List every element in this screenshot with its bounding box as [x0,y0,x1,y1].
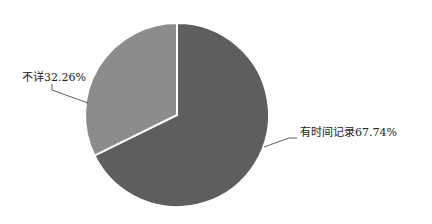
slice-label-recorded: 有时间记录67.74% [300,123,397,139]
leader-line-unknown [52,84,88,103]
pie-chart [0,0,432,224]
slice-label-unknown: 不详32.26% [22,68,86,84]
leader-line-recorded [264,138,297,147]
